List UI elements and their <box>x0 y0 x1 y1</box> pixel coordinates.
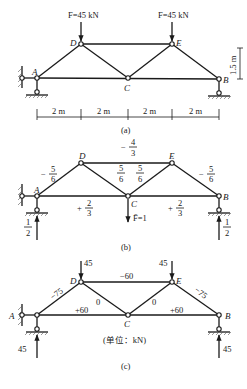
svg-text:6: 6 <box>119 174 123 184</box>
label-B-c: B <box>225 311 231 321</box>
node-B-c <box>217 313 221 317</box>
force-DC-c: 0 <box>96 297 100 307</box>
load-arrow-D: F=45 kN <box>68 10 99 41</box>
label-B: B <box>223 75 229 85</box>
force-CE-c: 0 <box>152 297 156 307</box>
span-4: 2 m <box>189 106 202 116</box>
node-C <box>126 76 130 80</box>
svg-text:5: 5 <box>119 163 123 173</box>
pin-support-A-b <box>25 196 48 216</box>
svg-text:45: 45 <box>84 258 93 268</box>
span-dimensions: 2 m 2 m 2 m 2 m <box>37 106 219 120</box>
reaction-A-b: 1 2 <box>24 216 37 240</box>
svg-text:6: 6 <box>138 174 142 184</box>
wall-support-c <box>18 304 37 326</box>
node-D <box>79 42 83 46</box>
svg-text:3: 3 <box>87 208 91 218</box>
svg-text:4: 4 <box>131 137 136 147</box>
svg-text:45: 45 <box>159 258 168 268</box>
label-C-c: C <box>124 319 131 329</box>
panel-c: A D C E B 45 45 −75 −60 0 0 −75 +60 +60 … <box>8 258 232 371</box>
label-D-c: D <box>69 276 77 286</box>
svg-text:1: 1 <box>26 217 30 227</box>
svg-text:6: 6 <box>51 174 55 184</box>
svg-text:2: 2 <box>178 198 182 208</box>
height-dimension: 1.5 m <box>228 48 243 79</box>
label-E: E <box>175 38 182 48</box>
label-A: A <box>31 67 38 77</box>
truss-figure: A D C E B F=45 kN F=45 kN 1.5 m 2 <box>0 0 247 389</box>
load-arrow-E-c: 45 <box>159 258 172 279</box>
force-DC-b: 5 6 <box>117 163 125 184</box>
svg-text:+: + <box>168 203 173 213</box>
force-CB-b: + 2 3 <box>168 198 184 218</box>
node-E-c <box>170 280 174 284</box>
svg-text:3: 3 <box>178 208 182 218</box>
svg-text:1: 1 <box>225 217 229 227</box>
svg-text:2: 2 <box>87 198 91 208</box>
label-E-c: E <box>175 276 182 286</box>
reaction-B-c: 45 <box>219 335 232 358</box>
force-DE-c: −60 <box>120 271 133 281</box>
svg-text:5: 5 <box>138 163 142 173</box>
span-3: 2 m <box>143 106 156 116</box>
node-E <box>170 42 174 46</box>
panel-b: A D C E B − 5 6 − 4 3 5 6 5 6 − 5 <box>18 137 231 252</box>
caption-c: (c) <box>121 361 131 371</box>
svg-text:45: 45 <box>18 344 27 354</box>
node-B <box>217 77 221 81</box>
panel-a: A D C E B F=45 kN F=45 kN 1.5 m 2 <box>18 10 243 135</box>
load-label-D: F=45 kN <box>68 10 99 20</box>
node-D-c <box>79 280 83 284</box>
node-C-c <box>126 313 130 317</box>
pin-support-A-c <box>25 315 48 335</box>
load-arrow-E: F=45 kN <box>158 10 189 41</box>
force-AD-c: −75 <box>48 286 65 302</box>
label-A-c: A <box>8 311 15 321</box>
svg-text:−: − <box>121 142 126 152</box>
svg-text:3: 3 <box>131 148 135 158</box>
label-D-b: D <box>78 151 86 161</box>
force-CE-b: 5 6 <box>136 163 144 184</box>
caption-b: (b) <box>121 242 131 252</box>
svg-text:−: − <box>199 169 204 179</box>
caption-a: (a) <box>121 125 131 135</box>
force-CB-c: +60 <box>170 305 183 315</box>
force-AD-b: − 5 6 <box>41 164 57 184</box>
svg-text:45: 45 <box>223 344 232 354</box>
span-2: 2 m <box>97 106 110 116</box>
svg-text:−: − <box>41 169 46 179</box>
svg-text:5: 5 <box>209 164 213 174</box>
label-D: D <box>69 38 77 48</box>
node-A-c <box>35 313 39 317</box>
label-E-b: E <box>168 151 175 161</box>
svg-text:2: 2 <box>26 228 30 238</box>
truss-members-c <box>37 282 219 315</box>
reaction-A-c: 45 <box>18 335 37 358</box>
force-EB-b: − 5 6 <box>199 164 215 184</box>
label-C-b: C <box>131 199 138 209</box>
node-D-b <box>79 161 83 165</box>
svg-text:6: 6 <box>209 174 213 184</box>
force-AC-b: + 2 3 <box>77 198 93 218</box>
pin-support-A-a <box>25 78 48 98</box>
force-DE-b: − 4 3 <box>121 137 137 158</box>
load-label-E: F=45 kN <box>158 10 189 20</box>
node-E-b <box>170 161 174 165</box>
span-1: 2 m <box>52 106 65 116</box>
unit-load-label: F̄=1 <box>133 213 147 223</box>
node-C-b <box>126 194 130 198</box>
svg-text:5: 5 <box>51 164 55 174</box>
node-B-b <box>217 194 221 198</box>
reaction-B-b: 1 2 <box>219 216 231 240</box>
svg-text:+: + <box>77 203 82 213</box>
label-A-b: A <box>33 185 40 195</box>
unit-note: (单位：kN) <box>103 335 146 345</box>
truss-members-b <box>37 163 219 196</box>
label-B-b: B <box>223 192 229 202</box>
svg-text:2: 2 <box>225 228 229 238</box>
truss-members-a <box>37 44 219 79</box>
load-arrow-D-c: 45 <box>81 258 93 279</box>
label-C: C <box>124 83 131 93</box>
height-label: 1.5 m <box>228 55 238 75</box>
